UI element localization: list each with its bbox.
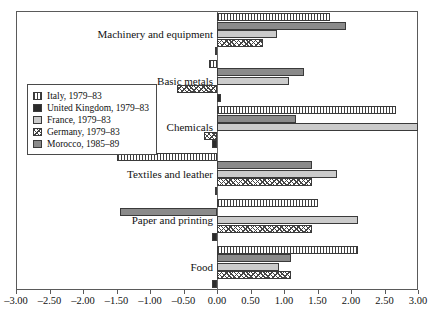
x-tick-label-2: –2.00 [71,295,95,306]
x-tick-10 [351,290,352,294]
legend-label-morocco: Morocco, 1985–89 [47,139,119,149]
x-tick-2 [83,290,84,294]
x-tick-label-12: 3.00 [409,295,427,306]
x-tick-4 [150,290,151,294]
bar-machinery-and-equipment-morocco [217,22,346,30]
bar-chemicals-morocco [217,115,296,123]
legend: Italy, 1979–83 United Kingdom, 1979–83 F… [27,84,157,155]
legend-item-united-kingdom[interactable]: United Kingdom, 1979–83 [33,102,149,113]
bar-textiles-and-leather-united-kingdom [215,187,217,195]
bar-chemicals-france [217,123,418,131]
legend-item-france[interactable]: France, 1979–83 [33,114,149,125]
bar-paper-and-printing-germany [217,225,312,233]
category-label-textiles-and-leather: Textiles and leather [0,168,213,180]
x-tick-6 [217,290,218,294]
bar-basic-metals-morocco [217,68,304,76]
legend-label-france: France, 1979–83 [47,115,111,125]
bar-machinery-and-equipment-united-kingdom [215,47,217,55]
x-tick-9 [318,290,319,294]
x-tick-label-1: –2.50 [38,295,62,306]
legend-swatch-icon-united-kingdom [33,104,42,112]
bar-food-germany [217,271,291,279]
x-tick-label-10: 2.00 [342,295,360,306]
x-tick-label-8: 1.00 [275,295,293,306]
x-tick-label-4: –1.00 [138,295,162,306]
x-tick-7 [251,290,252,294]
bar-machinery-and-equipment-france [217,30,277,38]
bar-chemicals-united-kingdom [212,140,217,148]
bar-food-italy [217,246,358,254]
bar-textiles-and-leather-morocco [217,161,312,169]
x-tick-12 [418,290,419,294]
x-tick-label-0: –3.00 [4,295,28,306]
bar-basic-metals-united-kingdom [217,94,221,102]
x-tick-label-11: 2.50 [375,295,393,306]
bar-basic-metals-italy [209,60,217,68]
x-tick-label-9: 1.50 [308,295,326,306]
category-label-paper-and-printing: Paper and printing [0,214,213,226]
x-tick-3 [117,290,118,294]
legend-swatch-icon-italy [33,92,42,100]
x-tick-label-3: –1.50 [105,295,129,306]
bar-textiles-and-leather-france [217,170,337,178]
legend-label-germany: Germany, 1979–83 [47,127,120,137]
x-tick-5 [184,290,185,294]
category-label-food: Food [0,261,213,273]
bar-machinery-and-equipment-germany [217,39,263,47]
legend-item-morocco[interactable]: Morocco, 1985–89 [33,138,149,149]
bar-paper-and-printing-italy [217,199,318,207]
x-tick-0 [16,290,17,294]
legend-swatch-icon-germany [33,128,42,136]
category-label-machinery-and-equipment: Machinery and equipment [0,28,213,40]
legend-swatch-icon-morocco [33,140,42,148]
legend-label-italy: Italy, 1979–83 [47,91,102,101]
legend-label-united-kingdom: United Kingdom, 1979–83 [47,103,149,113]
x-tick-8 [284,290,285,294]
x-tick-11 [385,290,386,294]
bar-chemicals-italy [217,106,396,114]
bar-food-france [217,263,279,271]
bar-paper-and-printing-united-kingdom [212,233,217,241]
x-tick-1 [50,290,51,294]
bar-food-united-kingdom [212,280,217,288]
bar-machinery-and-equipment-italy [217,13,330,21]
legend-item-germany[interactable]: Germany, 1979–83 [33,126,149,137]
legend-item-italy[interactable]: Italy, 1979–83 [33,90,149,101]
bar-chart: Machinery and equipmentBasic metalsChemi… [0,0,436,318]
x-tick-label-5: –0.50 [172,295,196,306]
bar-basic-metals-france [217,77,289,85]
x-tick-label-6: 0.00 [208,295,226,306]
bar-textiles-and-leather-germany [217,178,312,186]
legend-swatch-icon-france [33,116,42,124]
bar-food-morocco [217,254,291,262]
x-tick-label-7: 0.50 [241,295,259,306]
bar-paper-and-printing-france [217,216,358,224]
